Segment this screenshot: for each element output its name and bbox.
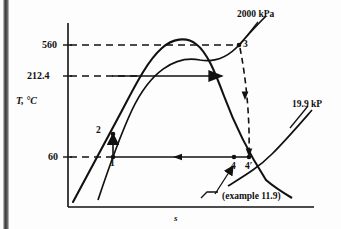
leader-2000-kpa — [238, 22, 258, 47]
isobar-label-19-9-kpa: 19.9 kP — [292, 100, 322, 110]
state-point-label-1: 1 — [110, 159, 115, 169]
state-point-label-3: 3 — [243, 40, 248, 50]
state-point-label-2: 2 — [96, 126, 101, 136]
marker-point-2 — [111, 132, 116, 137]
y-axis-title: T, °C — [16, 96, 37, 106]
plot-canvas — [0, 0, 341, 229]
isobar-label-2000-kpa: 2000 kPa — [237, 10, 274, 20]
state-point-label-4-prime: 4′ — [245, 162, 252, 172]
dashed-guide-lines — [70, 45, 238, 157]
y-tick-label-560: 560 — [42, 40, 57, 50]
y-tick-label-212-4: 212.4 — [27, 71, 50, 81]
ts-diagram-figure: 560 212.4 60 T, °C s 2000 kPa 19.9 kP 1 … — [0, 0, 341, 229]
marker-point-4-prime — [247, 155, 252, 160]
saturation-dome-curve — [73, 39, 266, 202]
example-note-label: (example 11.9) — [222, 192, 281, 202]
process-4-1-arrowhead — [173, 154, 182, 160]
isobar-19-9-kpa-curve — [228, 110, 312, 186]
y-tick-label-60: 60 — [48, 152, 58, 162]
x-axis-title: s — [174, 214, 178, 223]
state-point-label-4: 4 — [231, 162, 236, 172]
marker-point-4 — [232, 155, 237, 160]
